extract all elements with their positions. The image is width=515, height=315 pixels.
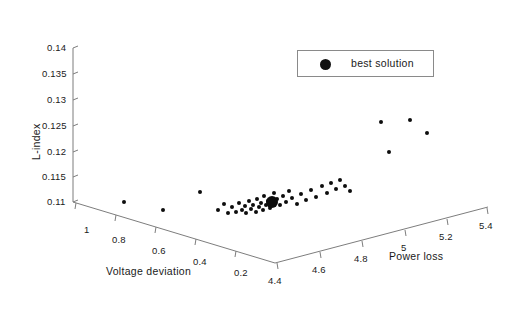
legend: best solution: [297, 50, 434, 77]
x-tick-label: 0.6: [152, 245, 166, 256]
legend-marker-icon: [320, 59, 331, 70]
axes-lines: [0, 0, 515, 315]
z-tick-label: 0.13: [47, 94, 66, 105]
y-tick-label: 4.8: [354, 253, 368, 264]
y-tick-label: 5.4: [479, 220, 493, 231]
y-axis-ticks: [277, 208, 488, 269]
legend-label: best solution: [351, 57, 414, 69]
x-tick-label: 1: [84, 224, 89, 235]
z-tick-label: 0.125: [42, 120, 67, 131]
chart-figure: 0.14 0.135 0.13 0.125 0.12 0.115 0.11 1 …: [0, 0, 515, 315]
y-tick-label: 4.6: [312, 264, 326, 275]
z-axis-ticks: [73, 46, 78, 202]
z-tick-label: 0.14: [47, 42, 66, 53]
x-tick-label: 0.8: [112, 234, 126, 245]
y-axis-title: Power loss: [389, 250, 443, 262]
z-tick-label: 0.12: [47, 146, 66, 157]
y-tick-label: 4.4: [268, 275, 282, 286]
y-axis-line: [275, 207, 488, 263]
x-tick-label: 0.4: [193, 256, 207, 267]
z-tick-label: 0.135: [42, 68, 67, 79]
x-tick-label: 0.2: [234, 267, 248, 278]
x-axis-title: Voltage deviation: [106, 265, 191, 277]
z-axis-title: L-index: [30, 123, 42, 160]
z-tick-label: 0.115: [42, 171, 66, 182]
y-tick-label: 5.2: [439, 231, 453, 242]
z-tick-label: 0.11: [47, 196, 66, 207]
